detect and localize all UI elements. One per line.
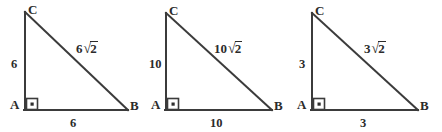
triangle-2-vertex-a-label: A bbox=[151, 98, 160, 111]
triangle-2-vertex-b-label: B bbox=[274, 99, 283, 112]
triangle-1-radical: √2 bbox=[83, 41, 98, 56]
triangle-2-radical: √2 bbox=[227, 41, 242, 56]
triangle-3-hypotenuse-label: 3√2 bbox=[364, 41, 386, 56]
triangle-2-right-angle-dot bbox=[172, 103, 175, 106]
triangle-1-right-angle-dot bbox=[31, 103, 34, 106]
triangle-2-hypotenuse-coefficient: 10 bbox=[214, 41, 227, 56]
triangle-3-radical: √2 bbox=[371, 41, 386, 56]
triangle-3-vertex-a-label: A bbox=[297, 98, 306, 111]
triangle-3-right-angle-dot bbox=[318, 103, 321, 106]
triangle-1-vertex-a-label: A bbox=[10, 98, 19, 111]
triangle-2-hypotenuse-label: 10√2 bbox=[214, 41, 242, 56]
triangle-3-hypotenuse bbox=[312, 13, 418, 110]
triangle-1-hypotenuse-label: 6√2 bbox=[76, 41, 98, 56]
triangle-3-horizontal-leg-label: 3 bbox=[360, 117, 366, 130]
triangle-2-vertex-c-label: C bbox=[169, 4, 178, 17]
triangle-2-horizontal-leg-label: 10 bbox=[210, 117, 223, 130]
triangle-1-vertex-c-label: C bbox=[28, 3, 37, 16]
triangle-3-vertical-leg-label: 3 bbox=[299, 58, 305, 71]
triangle-3-radicand: 2 bbox=[378, 41, 386, 55]
triangle-2: C A B 10 10 10√2 bbox=[147, 0, 294, 132]
triangle-1-vertex-b-label: B bbox=[130, 99, 139, 112]
triangle-2-hypotenuse bbox=[166, 13, 272, 110]
triangle-3-vertex-b-label: B bbox=[420, 99, 429, 112]
triangle-1-radicand: 2 bbox=[90, 41, 98, 55]
triangle-1: C A B 6 6 6√2 bbox=[0, 0, 147, 132]
triangle-3-vertex-c-label: C bbox=[315, 4, 324, 17]
triangle-2-graphic bbox=[147, 0, 294, 132]
triangle-1-vertical-leg-label: 6 bbox=[11, 58, 17, 71]
triangles-figure: C A B 6 6 6√2 C A B 10 10 10√2 bbox=[0, 0, 442, 132]
triangle-1-graphic bbox=[0, 0, 147, 132]
triangle-2-vertical-leg-label: 10 bbox=[149, 58, 162, 71]
triangle-1-hypotenuse bbox=[25, 12, 128, 110]
triangle-2-radicand: 2 bbox=[235, 41, 243, 55]
triangle-1-horizontal-leg-label: 6 bbox=[70, 117, 76, 130]
triangle-3: C A B 3 3 3√2 bbox=[294, 0, 442, 132]
